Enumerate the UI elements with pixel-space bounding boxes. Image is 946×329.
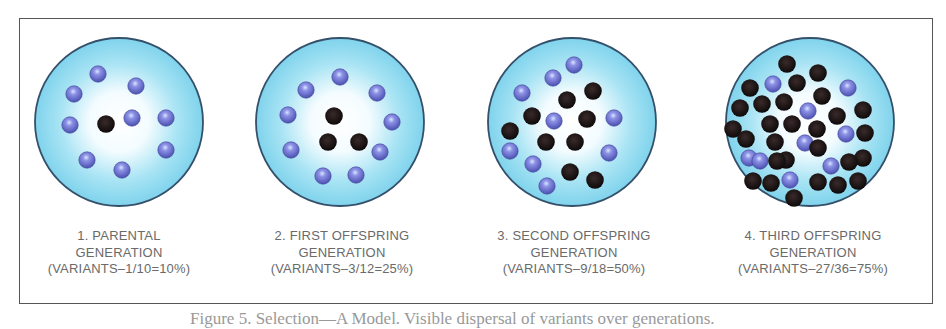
variant-organism-dot bbox=[840, 153, 858, 171]
original-organism-dot bbox=[158, 142, 174, 158]
panel-1-label: 1. PARENTAL GENERATION (VARIANTS–1/10=10… bbox=[9, 228, 229, 278]
original-organism-dot bbox=[539, 178, 555, 194]
variant-organism-dot bbox=[578, 110, 596, 128]
original-organism-dot bbox=[369, 85, 385, 101]
petri-dish-4 bbox=[724, 38, 894, 207]
original-organism-dot bbox=[79, 152, 95, 168]
variant-organism-dot bbox=[325, 107, 343, 125]
original-organism-dot bbox=[546, 113, 562, 129]
panel-4-subtitle: GENERATION bbox=[703, 245, 923, 262]
original-organism-dot bbox=[298, 82, 314, 98]
original-organism-dot bbox=[372, 144, 388, 160]
variant-organism-dot bbox=[737, 130, 755, 148]
panel-3-subtitle: GENERATION bbox=[464, 245, 684, 262]
variant-organism-dot bbox=[537, 133, 555, 151]
panel-4-ratio: (VARIANTS–27/36=75%) bbox=[703, 261, 923, 278]
variant-organism-dot bbox=[783, 115, 801, 133]
variant-organism-dot bbox=[809, 139, 827, 157]
original-organism-dot bbox=[823, 158, 839, 174]
original-organism-dot bbox=[283, 142, 299, 158]
variant-organism-dot bbox=[768, 152, 786, 170]
original-organism-dot bbox=[514, 85, 530, 101]
variant-organism-dot bbox=[829, 176, 847, 194]
variant-organism-dot bbox=[766, 133, 784, 151]
variant-organism-dot bbox=[775, 93, 793, 111]
original-organism-dot bbox=[566, 57, 582, 73]
panel-2-subtitle: GENERATION bbox=[232, 245, 452, 262]
panel-3-title: 3. SECOND OFFSPRING bbox=[464, 228, 684, 245]
original-organism-dot bbox=[601, 145, 617, 161]
original-organism-dot bbox=[752, 153, 768, 169]
variant-organism-dot bbox=[558, 91, 576, 109]
variant-organism-dot bbox=[778, 55, 796, 73]
variant-organism-dot bbox=[350, 133, 368, 151]
panel-1-ratio: (VARIANTS–1/10=10%) bbox=[9, 261, 229, 278]
variant-organism-dot bbox=[586, 171, 604, 189]
original-organism-dot bbox=[545, 70, 561, 86]
variant-organism-dot bbox=[97, 115, 115, 133]
variant-organism-dot bbox=[561, 163, 579, 181]
original-organism-dot bbox=[606, 110, 622, 126]
original-organism-dot bbox=[124, 110, 140, 126]
original-organism-dot bbox=[384, 114, 400, 130]
variant-organism-dot bbox=[523, 107, 541, 125]
original-organism-dot bbox=[502, 143, 518, 159]
original-organism-dot bbox=[840, 80, 856, 96]
original-organism-dot bbox=[348, 167, 364, 183]
variant-organism-dot bbox=[731, 99, 749, 117]
panel-2-title: 2. FIRST OFFSPRING bbox=[232, 228, 452, 245]
original-organism-dot bbox=[114, 162, 130, 178]
panel-3-label: 3. SECOND OFFSPRING GENERATION (VARIANTS… bbox=[464, 228, 684, 278]
panel-4-title: 4. THIRD OFFSPRING bbox=[703, 228, 923, 245]
variant-organism-dot bbox=[566, 133, 584, 151]
variant-organism-dot bbox=[753, 95, 771, 113]
original-organism-dot bbox=[332, 69, 348, 85]
variant-organism-dot bbox=[854, 101, 872, 119]
original-organism-dot bbox=[765, 76, 781, 92]
original-organism-dot bbox=[782, 172, 798, 188]
variant-organism-dot bbox=[744, 172, 762, 190]
original-organism-dot bbox=[838, 126, 854, 142]
original-organism-dot bbox=[158, 110, 174, 126]
variant-organism-dot bbox=[856, 124, 874, 142]
panel-2-ratio: (VARIANTS–3/12=25%) bbox=[232, 261, 452, 278]
variant-organism-dot bbox=[828, 107, 846, 125]
variant-organism-dot bbox=[761, 115, 779, 133]
original-organism-dot bbox=[525, 156, 541, 172]
variant-organism-dot bbox=[809, 64, 827, 82]
variant-organism-dot bbox=[584, 82, 602, 100]
petri-dish-2 bbox=[256, 38, 424, 206]
original-organism-dot bbox=[62, 117, 78, 133]
original-organism-dot bbox=[90, 66, 106, 82]
original-organism-dot bbox=[128, 78, 144, 94]
dish-circle bbox=[35, 38, 203, 206]
variant-organism-dot bbox=[741, 79, 759, 97]
petri-dish-3 bbox=[488, 38, 656, 206]
variant-organism-dot bbox=[501, 122, 519, 140]
original-organism-dot bbox=[315, 168, 331, 184]
original-organism-dot bbox=[280, 107, 296, 123]
panel-4-label: 4. THIRD OFFSPRING GENERATION (VARIANTS–… bbox=[703, 228, 923, 278]
variant-organism-dot bbox=[808, 120, 826, 138]
petri-dish-1 bbox=[35, 38, 203, 206]
variant-organism-dot bbox=[785, 189, 803, 207]
variant-organism-dot bbox=[809, 173, 827, 191]
variant-organism-dot bbox=[762, 174, 780, 192]
panel-3-ratio: (VARIANTS–9/18=50%) bbox=[464, 261, 684, 278]
original-organism-dot bbox=[66, 86, 82, 102]
panel-1-subtitle: GENERATION bbox=[9, 245, 229, 262]
panel-2-label: 2. FIRST OFFSPRING GENERATION (VARIANTS–… bbox=[232, 228, 452, 278]
panel-1-title: 1. PARENTAL bbox=[9, 228, 229, 245]
variant-organism-dot bbox=[813, 87, 831, 105]
original-organism-dot bbox=[800, 103, 816, 119]
variant-organism-dot bbox=[319, 133, 337, 151]
variant-organism-dot bbox=[788, 74, 806, 92]
variant-organism-dot bbox=[849, 172, 867, 190]
figure-caption: Figure 5. Selection—A Model. Visible dis… bbox=[190, 309, 890, 329]
